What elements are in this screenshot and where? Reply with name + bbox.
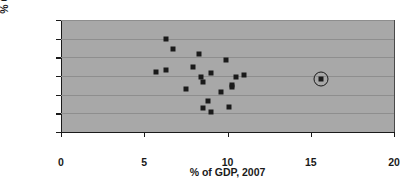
x-axis-tick — [144, 132, 145, 137]
data-point-highlighted — [318, 76, 323, 81]
data-point — [205, 98, 210, 103]
y-axis-title: % Change, 1990–2007 — [0, 0, 10, 18]
x-axis-tick — [311, 132, 312, 137]
data-point — [200, 105, 205, 110]
x-axis-tick — [394, 132, 395, 137]
data-point — [208, 110, 213, 115]
data-point — [223, 58, 228, 63]
data-point — [163, 68, 168, 73]
scatter-chart: 0%10%20%30%40%50%60% 05101520 % Change, … — [0, 0, 411, 188]
data-point — [197, 51, 202, 56]
data-point — [242, 72, 247, 77]
x-axis-tick — [61, 132, 62, 137]
data-point — [208, 70, 213, 75]
data-point — [227, 105, 232, 110]
data-point-markers — [61, 20, 394, 132]
data-point — [153, 70, 158, 75]
data-point — [230, 84, 235, 89]
x-axis-title: % of GDP, 2007 — [61, 166, 394, 178]
data-point — [233, 74, 238, 79]
data-point — [190, 65, 195, 70]
data-point — [163, 36, 168, 41]
x-axis-tick — [228, 132, 229, 137]
data-point — [183, 87, 188, 92]
data-point — [218, 90, 223, 95]
data-point — [170, 46, 175, 51]
data-point — [200, 80, 205, 85]
